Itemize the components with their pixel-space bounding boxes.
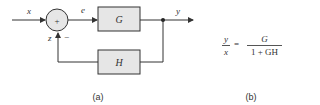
caption-a: (a) — [93, 92, 104, 102]
output-label: y — [175, 6, 180, 16]
plus-sign: + — [54, 16, 59, 26]
rhs-denominator: 1 + GH — [251, 47, 278, 57]
rhs-numerator: G — [261, 34, 268, 44]
lhs-fraction-bar — [222, 45, 230, 46]
transfer-function-formula: y x = G 1 + GH — [222, 31, 284, 63]
feedback-label: z — [47, 33, 52, 43]
rhs-fraction-bar — [247, 45, 282, 46]
minus-sign: − — [64, 32, 69, 42]
feedback-path-right — [140, 20, 163, 62]
error-label: e — [81, 5, 85, 15]
forward-block-label: G — [115, 14, 122, 25]
lhs-numerator: y — [224, 34, 228, 44]
input-label: x — [26, 6, 31, 16]
caption-b: (b) — [246, 92, 257, 102]
equals-sign: = — [234, 39, 239, 49]
rhs-fraction: G 1 + GH — [247, 34, 282, 57]
lhs-fraction: y x — [222, 34, 230, 57]
feedback-block-label: H — [114, 57, 123, 68]
lhs-denominator: x — [224, 47, 228, 57]
